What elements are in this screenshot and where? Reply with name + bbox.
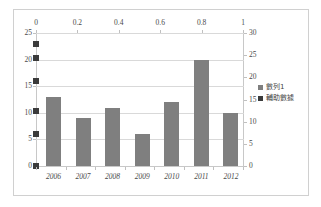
top-axis-tick-label: 0 xyxy=(21,19,51,27)
left-axis-tick-label: 5 xyxy=(10,135,32,143)
right-axis-tickmark xyxy=(244,144,247,145)
right-axis-tickmark xyxy=(244,77,247,78)
bar-2012[interactable] xyxy=(223,113,238,166)
left-axis-line xyxy=(36,33,37,166)
right-axis-tick-label: 5 xyxy=(249,140,271,148)
bar-2008[interactable] xyxy=(105,108,120,167)
right-axis-tickmark xyxy=(244,100,247,101)
top-axis-tick-label: 0.8 xyxy=(187,19,217,27)
right-axis-tick-label: 20 xyxy=(249,73,271,81)
top-axis-tickmark xyxy=(77,30,78,33)
scatter-marker[interactable] xyxy=(33,78,39,84)
left-axis-tick-label: 25 xyxy=(10,29,32,37)
right-axis-tickmark xyxy=(244,166,247,167)
scatter-marker[interactable] xyxy=(33,55,39,61)
bottom-axis-tickmark xyxy=(154,167,155,170)
bottom-axis-tickmark xyxy=(184,167,185,170)
bottom-axis-tickmark xyxy=(125,167,126,170)
gridline xyxy=(36,113,244,114)
bar-2011[interactable] xyxy=(194,60,209,166)
bottom-axis-tickmark xyxy=(95,167,96,170)
right-axis-tick-label: 30 xyxy=(249,29,271,37)
right-axis-tick-label: 0 xyxy=(249,162,271,170)
legend-swatch-icon xyxy=(258,96,263,101)
scatter-marker[interactable] xyxy=(33,131,39,137)
left-axis-tick-label: 10 xyxy=(10,109,32,117)
gridline xyxy=(36,33,244,34)
top-axis-tick-label: 1 xyxy=(228,19,258,27)
top-axis-tickmark xyxy=(119,30,120,33)
right-axis-tick-label: 10 xyxy=(249,118,271,126)
legend-label-series1: 數列1 xyxy=(266,84,284,91)
gridline xyxy=(36,86,244,87)
bar-2009[interactable] xyxy=(135,134,150,166)
top-axis-tickmark xyxy=(243,30,244,33)
top-axis-tick-label: 0.6 xyxy=(145,19,175,27)
scatter-marker[interactable] xyxy=(33,41,39,47)
bar-2006[interactable] xyxy=(46,97,61,166)
left-axis-tick-label: 15 xyxy=(10,82,32,90)
top-axis-tick-label: 0.2 xyxy=(62,19,92,27)
legend-item-series1[interactable]: 數列1 xyxy=(258,84,310,91)
bottom-axis-tickmark xyxy=(66,167,67,170)
right-axis-tickmark xyxy=(244,55,247,56)
right-axis-tickmark xyxy=(244,122,247,123)
bottom-axis-tickmark xyxy=(36,167,37,170)
chart-container: 25 20 15 10 5 0 30 25 20 15 10 5 0 0 0.2… xyxy=(0,0,321,207)
bar-2010[interactable] xyxy=(164,102,179,166)
top-axis-tickmark xyxy=(202,30,203,33)
right-axis-tick-label: 25 xyxy=(249,51,271,59)
right-axis-tickmark xyxy=(244,33,247,34)
scatter-marker[interactable] xyxy=(33,108,39,114)
left-axis-tick-label: 0 xyxy=(10,162,32,170)
category-label-2012: 2012 xyxy=(214,173,248,181)
legend-item-auxiliary[interactable]: 輔助數據 xyxy=(258,95,310,102)
bottom-axis-tickmark xyxy=(243,167,244,170)
left-axis-tick-label: 20 xyxy=(10,56,32,64)
top-axis-tickmark xyxy=(160,30,161,33)
top-axis-tick-label: 0.4 xyxy=(104,19,134,27)
legend-label-auxiliary: 輔助數據 xyxy=(266,95,294,102)
legend-swatch-icon xyxy=(258,85,263,90)
bar-2007[interactable] xyxy=(76,118,91,166)
top-axis-tickmark xyxy=(36,30,37,33)
chart-legend: 數列1 輔助數據 xyxy=(258,84,310,106)
gridline xyxy=(36,60,244,61)
bottom-axis-tickmark xyxy=(213,167,214,170)
